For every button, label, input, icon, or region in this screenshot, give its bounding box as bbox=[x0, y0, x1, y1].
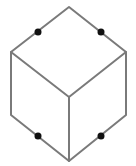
edge-right-upper-to-center bbox=[69, 52, 126, 97]
dot-bottom-left-edge bbox=[35, 133, 42, 140]
dot-top-left-edge bbox=[35, 29, 42, 36]
cube-edges bbox=[11, 7, 126, 161]
dot-bottom-right-edge bbox=[98, 133, 105, 140]
edge-left-upper-to-center bbox=[11, 52, 69, 97]
cube-diagram bbox=[0, 0, 136, 166]
dot-top-right-edge bbox=[98, 29, 105, 36]
